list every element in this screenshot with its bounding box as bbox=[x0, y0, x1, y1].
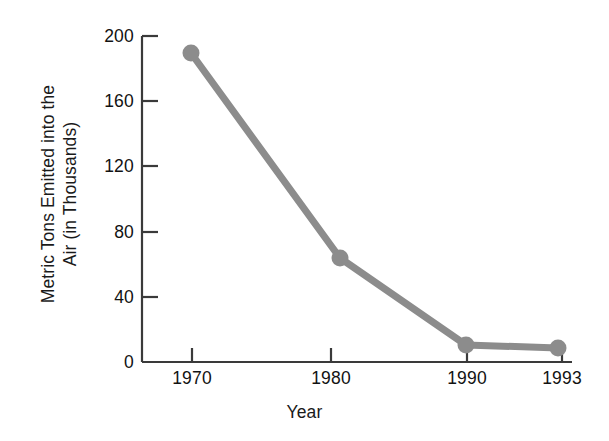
data-point-1990 bbox=[458, 337, 475, 354]
x-tick-label-1980: 1980 bbox=[311, 368, 351, 389]
x-tick-label-1993: 1993 bbox=[542, 368, 582, 389]
data-point-1980 bbox=[332, 250, 349, 267]
data-point-1993 bbox=[550, 340, 567, 357]
x-axis-title: Year bbox=[0, 402, 609, 423]
line-chart: Metric Tons Emitted into the Air (in Tho… bbox=[0, 0, 609, 441]
plot-area bbox=[0, 0, 609, 441]
data-point-1970 bbox=[183, 45, 200, 62]
x-tick-label-1970: 1970 bbox=[172, 368, 212, 389]
x-tick-label-1990: 1990 bbox=[447, 368, 487, 389]
data-line-series-1 bbox=[191, 53, 558, 348]
